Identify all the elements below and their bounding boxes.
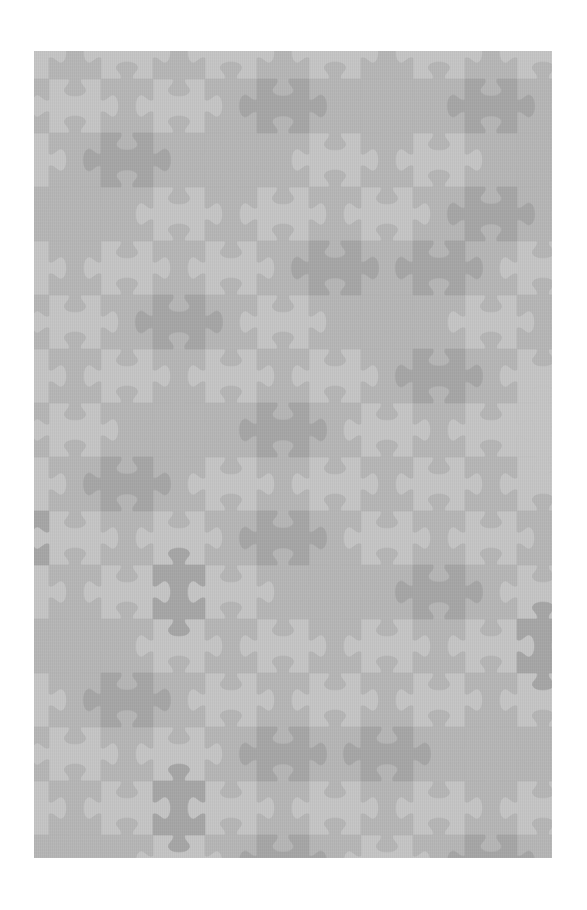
puzzle-pattern <box>34 51 552 858</box>
puzzle-pieces <box>34 51 552 858</box>
